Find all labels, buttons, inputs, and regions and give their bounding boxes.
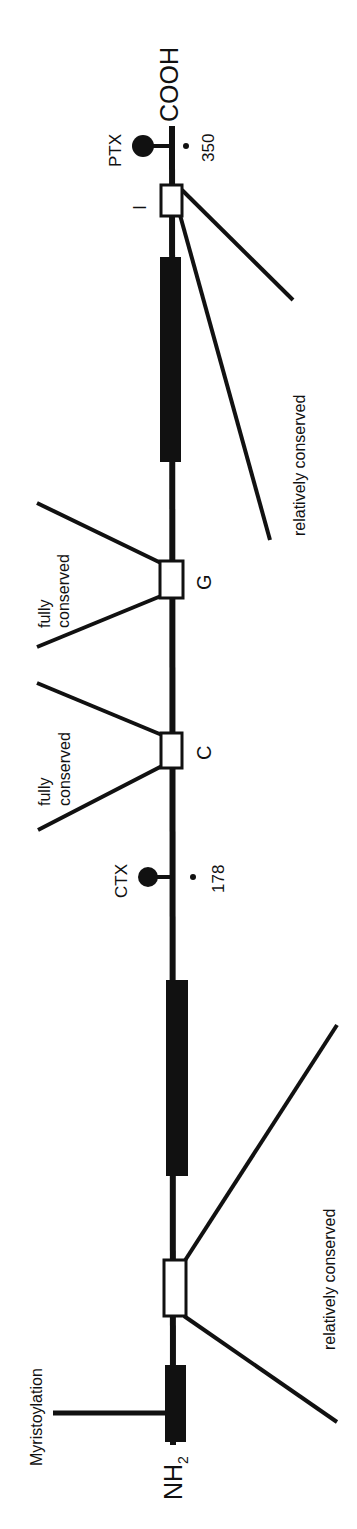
nh2-label: NH 2 (159, 1456, 191, 1500)
region-n-box (164, 1260, 186, 1316)
fully-conserved-g-line1: fully (36, 600, 53, 628)
relatively-conserved-top-label: relatively conserved (291, 395, 308, 536)
region-c: C fully conserved (36, 683, 215, 830)
region-g: G fully conserved (36, 503, 215, 647)
black-domain-nterm (165, 1365, 186, 1442)
ctx-ball-icon (138, 867, 158, 887)
region-n-conserved (164, 1025, 337, 1422)
residue-dot-icon (190, 874, 196, 880)
ptx-residue-label: 350 (199, 134, 218, 162)
region-c-box (161, 733, 182, 768)
black-domain-lower (166, 980, 188, 1176)
region-g-label: G (193, 574, 215, 590)
residue-dot-icon (183, 143, 189, 149)
relatively-conserved-bottom-label: relatively conserved (321, 1209, 338, 1350)
fully-conserved-c-line1: fully (36, 778, 53, 806)
region-i-label: I (130, 205, 150, 210)
fully-conserved-c-line2: conserved (56, 732, 73, 806)
ptx-ball-icon (132, 135, 154, 157)
ctx-label: CTX (112, 864, 131, 898)
region-i: I (130, 185, 293, 540)
black-domain-upper (160, 257, 181, 462)
region-c-label: C (193, 746, 215, 760)
nh2-subscript: 2 (175, 1456, 191, 1464)
myristoylation-label: Myristoylation (28, 1368, 45, 1466)
ctx-residue-label: 178 (209, 865, 228, 893)
ptx-label: PTX (106, 134, 125, 167)
cooh-label: COOH (155, 47, 183, 122)
domain-diagram: COOH PTX 350 I relatively conserved G fu… (0, 0, 357, 1529)
nh2-main: NH (159, 1464, 187, 1500)
region-i-box (161, 185, 182, 216)
region-g-box (160, 561, 183, 598)
ptx-site: PTX 350 (106, 134, 218, 167)
fully-conserved-g-line2: conserved (55, 554, 72, 628)
